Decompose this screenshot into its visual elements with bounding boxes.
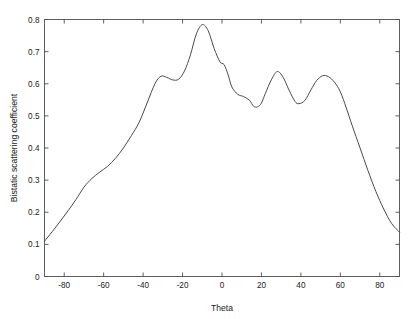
y-axis-tick-labels: 00.10.20.30.40.50.60.70.8 [28,16,40,282]
y-tick-label: 0.6 [28,80,40,89]
x-tick-label: 0 [220,281,225,290]
y-tick-label: 0.5 [28,112,40,121]
y-tick-label: 0.2 [28,208,40,217]
chart-svg: -80-60-40-20020406080 00.10.20.30.40.50.… [0,0,414,319]
y-tick-label: 0.8 [28,16,40,25]
x-tick-label: 40 [296,281,306,290]
x-tick-label: -20 [177,281,189,290]
y-tick-label: 0.4 [28,144,40,153]
x-axis-tick-labels: -80-60-40-20020406080 [58,281,384,290]
y-axis-title: Bistatic scattering coefficient [9,93,19,202]
x-tick-label: 80 [375,281,385,290]
x-tick-label: -80 [58,281,70,290]
x-tick-label: -60 [98,281,110,290]
x-axis-title: Theta [211,303,233,313]
x-tick-label: -40 [137,281,149,290]
y-tick-label: 0.3 [28,176,40,185]
y-tick-label: 0.1 [28,240,40,249]
y-tick-label: 0 [35,273,40,282]
figure-background [0,0,414,319]
x-tick-label: 60 [336,281,346,290]
y-tick-label: 0.7 [28,48,40,57]
chart-figure: -80-60-40-20020406080 00.10.20.30.40.50.… [0,0,414,319]
x-tick-label: 20 [257,281,267,290]
